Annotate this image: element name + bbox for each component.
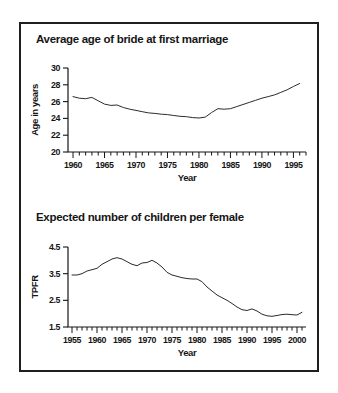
x-tick-label: 1970 [127,160,145,170]
x-tick-label: 1980 [188,335,206,345]
x-tick-label: 1970 [138,335,156,345]
x-tick-label: 1975 [158,160,176,170]
y-axis-label: Age in years [29,84,40,136]
y-tick-label: 4.5 [49,242,61,252]
y-tick-label: 26 [51,97,60,107]
x-tick-label: 1995 [263,335,281,345]
x-tick-label: 1960 [88,335,106,345]
x-axis-label: Year [178,172,197,183]
y-tick-label: 30 [51,63,60,73]
chart-2-axes [68,247,306,327]
x-tick-label: 1955 [63,335,81,345]
x-tick-label: 1960 [64,160,82,170]
x-tick-label: 2000 [288,335,306,345]
y-tick-label: 24 [51,113,60,123]
y-tick-label: 1.5 [49,322,61,332]
x-tick-label: 1965 [113,335,131,345]
y-tick-label: 20 [51,147,60,157]
y-tick-label: 22 [51,130,60,140]
x-tick-label: 1985 [221,160,239,170]
chart-1-series-line [73,84,300,119]
x-tick-label: 1990 [238,335,256,345]
x-axis-label: Year [178,347,197,358]
x-tick-label: 1965 [96,160,114,170]
x-tick-label: 1990 [253,160,271,170]
x-tick-label: 1975 [163,335,181,345]
chart-2-series-line [72,258,302,317]
figure-canvas: Average age of bride at first marriage E… [0,0,338,393]
chart-1-axes [68,68,306,152]
charts-svg: 2022242628301960196519701975198019851990… [0,0,338,393]
y-axis-label: TPFR [29,275,40,299]
y-tick-label: 28 [51,80,60,90]
chart-2-plot: 1.52.53.54.51955196019651970197519801985… [29,242,306,358]
y-tick-label: 3.5 [49,269,61,279]
x-tick-label: 1985 [213,335,231,345]
chart-1-plot: 2022242628301960196519701975198019851990… [29,63,306,183]
y-tick-label: 2.5 [49,295,61,305]
x-tick-label: 1980 [190,160,208,170]
x-tick-label: 1995 [284,160,302,170]
